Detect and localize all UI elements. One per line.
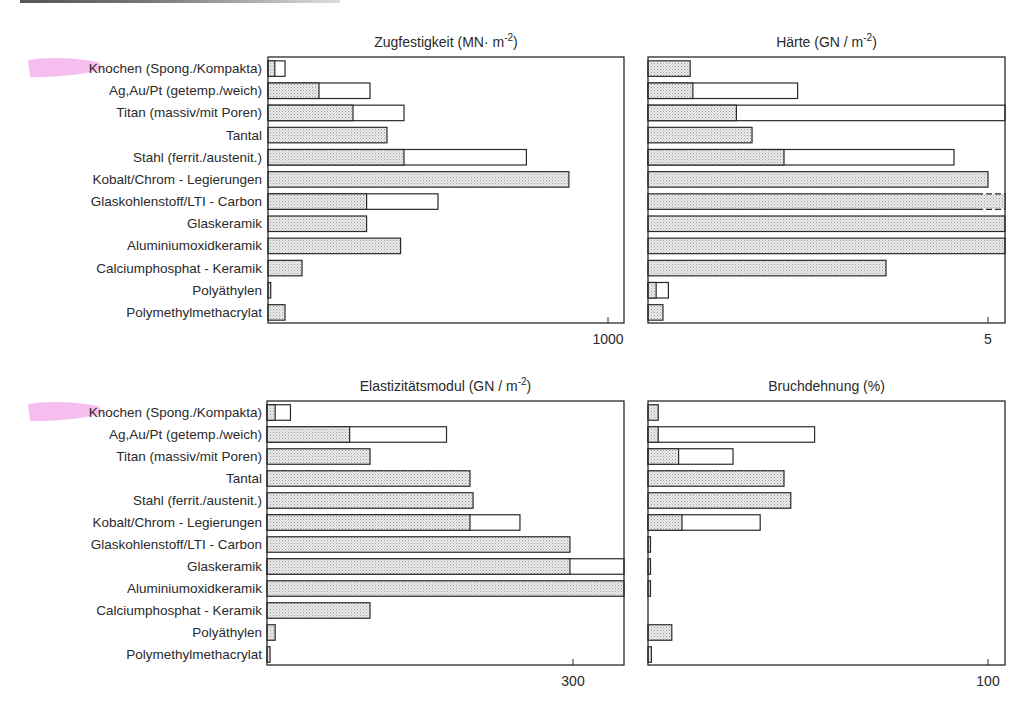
row-label-suffix: (Spong./Kompakta) (142, 405, 262, 420)
title-main: Bruchdehnung (% (768, 378, 880, 394)
bar-min (267, 625, 275, 641)
row-label: Knochen (Spong./Kompakta) (89, 405, 262, 420)
dash-fill (977, 194, 1005, 210)
row-labels-top: Knochen (Spong./Kompakta)Ag,Au/Pt (getem… (28, 58, 262, 320)
bar-min (268, 105, 353, 121)
row-label-highlighted: Knochen (89, 61, 142, 76)
bar-min (267, 427, 350, 443)
row-label: Glaskeramik (187, 559, 262, 574)
x-tick-label: 5 (984, 331, 992, 347)
row-label: Aluminiumoxidkeramik (127, 238, 262, 253)
bar-min (268, 238, 401, 254)
bar-min (267, 471, 470, 487)
chart-elastizitaetsmodul: Elastizitätsmodul (GN / m-2)300 (267, 376, 624, 689)
row-label: Calciumphosphat - Keramik (96, 603, 262, 618)
bar-min (648, 493, 791, 509)
row-label: Polyäthylen (192, 283, 262, 298)
bar-min (648, 172, 988, 188)
chart-title: Elastizitätsmodul (GN / m-2) (360, 376, 532, 394)
bar-min (648, 283, 656, 299)
row-label: Polymethylmethacrylat (126, 647, 262, 662)
bar-min (267, 537, 570, 553)
x-tick-label: 100 (976, 673, 1000, 689)
bar-min (648, 625, 672, 641)
bar-min (648, 216, 1005, 232)
row-label: Tantal (226, 128, 262, 143)
x-tick-label: 1000 (592, 331, 623, 347)
bar-min (648, 305, 663, 321)
title-main: Härte (GN / m (776, 34, 863, 50)
chart-title: Bruchdehnung (%) (768, 378, 885, 394)
bar-min (268, 127, 387, 143)
bar-min (267, 493, 473, 509)
row-label-suffix: (Spong./Kompakta) (142, 61, 262, 76)
title-main: Elastizitätsmodul (GN / m (360, 378, 518, 394)
row-label: Stahl (ferrit./austenit.) (133, 493, 262, 508)
row-label: Ag,Au/Pt (getemp./weich) (109, 427, 262, 442)
bar-min (648, 405, 658, 421)
bar-min (268, 216, 367, 232)
bar-min (268, 150, 404, 166)
row-label: Kobalt/Chrom - Legierungen (92, 515, 262, 530)
row-label: Glaskohlenstoff/LTI - Carbon (91, 537, 262, 552)
chart-zugfestigkeit: Zugfestigkeit (MN· m-2)1000 (268, 32, 624, 347)
title-main: Zugfestigkeit (MN· m (374, 34, 504, 50)
row-labels-bottom: Knochen (Spong./Kompakta)Ag,Au/Pt (getem… (28, 402, 262, 662)
title-close: ) (880, 378, 885, 394)
bar-min (268, 83, 319, 99)
row-label: Polymethylmethacrylat (126, 305, 262, 320)
bar-min (268, 194, 367, 210)
bar-min (648, 471, 784, 487)
row-label: Calciumphosphat - Keramik (96, 261, 262, 276)
bar-min (648, 449, 679, 465)
chart-title: Härte (GN / m-2) (776, 32, 877, 50)
bar-min (648, 127, 752, 143)
row-label: Stahl (ferrit./austenit.) (133, 150, 262, 165)
bar-min (268, 305, 285, 321)
figure: Knochen (Spong./Kompakta)Ag,Au/Pt (getem… (0, 0, 1029, 711)
bar-min (267, 449, 370, 465)
row-label: Kobalt/Chrom - Legierungen (92, 172, 262, 187)
bar-min (267, 581, 624, 597)
bar-min (648, 194, 1005, 210)
bar-min (648, 515, 682, 531)
bar-min (267, 515, 470, 531)
title-close: ) (872, 34, 877, 50)
chart-title: Zugfestigkeit (MN· m-2) (374, 32, 518, 50)
row-label: Tantal (226, 471, 262, 486)
bar-min (648, 260, 886, 276)
row-label: Aluminiumoxidkeramik (127, 581, 262, 596)
row-label: Ag,Au/Pt (getemp./weich) (109, 83, 262, 98)
bar-min (648, 238, 1005, 254)
x-tick-label: 300 (561, 673, 585, 689)
bar-min (267, 405, 275, 421)
title-close: ) (527, 378, 532, 394)
row-label: Glaskeramik (187, 216, 262, 231)
bar-min (648, 105, 736, 121)
row-label-highlighted: Knochen (89, 405, 142, 420)
bar-min (648, 83, 693, 99)
bar-min (267, 559, 570, 575)
bar-min (268, 260, 302, 276)
bar-min (268, 172, 569, 188)
bar-min (268, 61, 275, 76)
row-label: Titan (massiv/mit Poren) (116, 105, 262, 120)
row-label: Polyäthylen (192, 625, 262, 640)
row-label: Knochen (Spong./Kompakta) (89, 61, 262, 76)
bar-max (648, 427, 815, 443)
row-label: Titan (massiv/mit Poren) (116, 449, 262, 464)
row-label: Glaskohlenstoff/LTI - Carbon (91, 194, 262, 209)
bar-min (267, 603, 370, 619)
bar-min (648, 150, 784, 166)
bar-min (648, 61, 690, 76)
title-close: ) (513, 34, 518, 50)
chart-haerte: Härte (GN / m-2)5 (648, 32, 1005, 347)
bar-min (648, 427, 658, 443)
chart-bruchdehnung: Bruchdehnung (%)100 (648, 378, 1005, 689)
